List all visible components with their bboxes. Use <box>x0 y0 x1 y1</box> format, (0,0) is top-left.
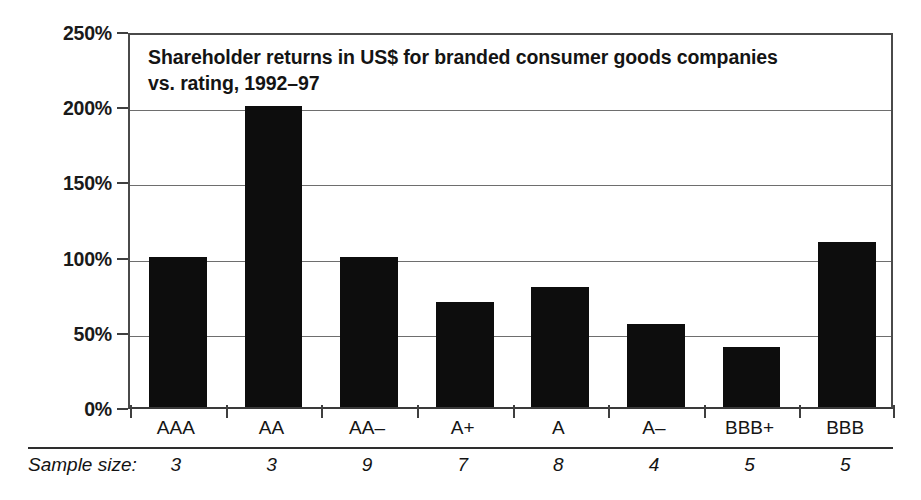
sample-size-AA: 3 <box>224 454 320 476</box>
x-axis-label-BBB+: BBB+ <box>702 417 798 439</box>
bar-AA <box>245 106 303 407</box>
chart-figure: 0%50%100%150%200%250% Shareholder return… <box>0 0 921 500</box>
sample-size-BBB+: 5 <box>702 454 798 476</box>
y-tick-mark-50 <box>117 333 128 335</box>
sample-size-A: 8 <box>511 454 607 476</box>
bar-AA– <box>340 257 398 407</box>
x-axis-label-AAA: AAA <box>128 417 224 439</box>
chart-title-line-2: vs. rating, 1992–97 <box>148 70 838 96</box>
sample-size-A+: 7 <box>415 454 511 476</box>
y-tick-mark-200 <box>117 107 128 109</box>
x-axis-label-A–: A– <box>606 417 702 439</box>
sample-size-AAA: 3 <box>128 454 224 476</box>
chart-title: Shareholder returns in US$ for branded c… <box>148 44 838 96</box>
x-axis-label-AA–: AA– <box>319 417 415 439</box>
bar-BBB <box>818 242 876 407</box>
y-tick-label-200: 200% <box>12 97 112 120</box>
bar-AAA <box>149 257 207 407</box>
bar-A <box>531 287 589 407</box>
bar-A+ <box>436 302 494 407</box>
x-axis-label-A+: A+ <box>415 417 511 439</box>
sample-size-AA–: 9 <box>319 454 415 476</box>
bar-BBB+ <box>723 347 781 407</box>
bar-A– <box>627 324 685 407</box>
y-tick-mark-150 <box>117 182 128 184</box>
x-tick-8 <box>893 405 895 418</box>
y-tick-label-50: 50% <box>12 322 112 345</box>
y-tick-mark-100 <box>117 258 128 260</box>
y-tick-label-150: 150% <box>12 172 112 195</box>
sample-size-A–: 4 <box>606 454 702 476</box>
sample-size-BBB: 5 <box>797 454 893 476</box>
x-axis-label-AA: AA <box>224 417 320 439</box>
y-tick-mark-0 <box>117 408 128 410</box>
sample-size-divider <box>28 447 893 449</box>
chart-title-line-1: Shareholder returns in US$ for branded c… <box>148 46 778 68</box>
sample-size-label: Sample size: <box>28 454 137 476</box>
plot-area: Shareholder returns in US$ for branded c… <box>128 33 893 409</box>
y-tick-label-100: 100% <box>12 247 112 270</box>
y-tick-label-250: 250% <box>12 22 112 45</box>
y-tick-mark-250 <box>117 32 128 34</box>
x-axis-label-A: A <box>511 417 607 439</box>
y-tick-label-0: 0% <box>12 398 112 421</box>
x-axis-label-BBB: BBB <box>797 417 893 439</box>
